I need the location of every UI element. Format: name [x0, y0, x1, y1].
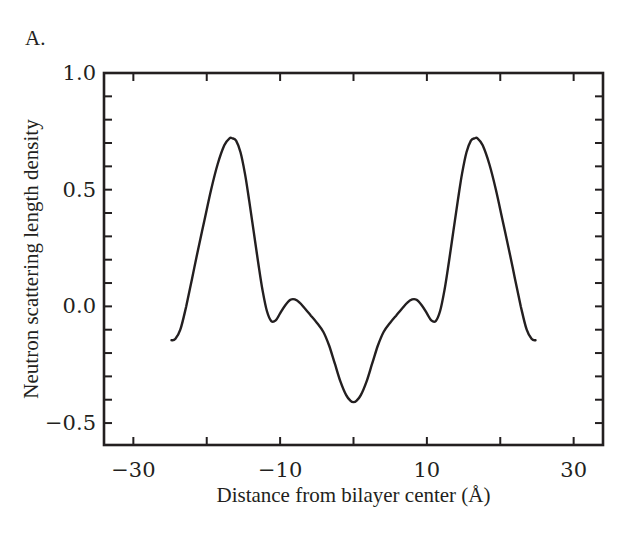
line-chart: −0.50.00.51.0 −30−101030 [0, 0, 636, 541]
y-tick-label: 0.0 [63, 294, 96, 318]
y-tick-labels: −0.50.00.51.0 [45, 61, 96, 435]
y-tick-label: 1.0 [63, 61, 96, 85]
y-axis-label: Neutron scattering length density [19, 119, 44, 398]
x-tick-label: −30 [111, 458, 155, 482]
x-tick-label: 30 [560, 458, 587, 482]
x-axis-label: Distance from bilayer center (Å) [104, 483, 603, 508]
x-tick-label: −10 [258, 458, 302, 482]
y-tick-label: −0.5 [45, 411, 96, 435]
axis-ticks [104, 73, 603, 445]
panel-label: A. [25, 26, 45, 51]
y-tick-label: 0.5 [63, 178, 96, 202]
x-tick-labels: −30−101030 [111, 458, 587, 482]
density-curve [172, 138, 536, 402]
figure: A. −0.50.00.51.0 −30−101030 Neutron scat… [0, 0, 636, 541]
plot-frame [104, 73, 603, 445]
x-tick-label: 10 [414, 458, 441, 482]
